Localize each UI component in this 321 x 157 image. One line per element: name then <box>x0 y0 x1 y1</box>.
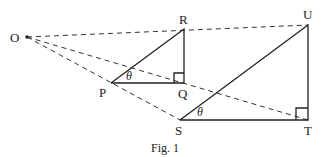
figure-caption: Fig. 1 <box>151 141 179 155</box>
right-angle-mark-T <box>296 108 308 120</box>
label-S: S <box>175 123 182 138</box>
dashed-ray-ORU <box>27 25 308 37</box>
label-U: U <box>303 7 313 22</box>
point-O-dot <box>25 35 29 39</box>
triangle-PQR <box>111 29 184 83</box>
theta-label-P: θ <box>126 69 132 83</box>
label-R: R <box>179 12 188 27</box>
label-O: O <box>10 30 19 45</box>
right-angle-mark-Q <box>174 73 184 83</box>
theta-label-S: θ <box>197 105 203 119</box>
label-T: T <box>304 123 312 138</box>
geometry-figure: O P Q R S T U θ θ Fig. 1 <box>0 0 321 157</box>
label-P: P <box>99 85 106 100</box>
label-Q: Q <box>178 86 188 101</box>
dashed-ray-OQT <box>27 37 308 120</box>
